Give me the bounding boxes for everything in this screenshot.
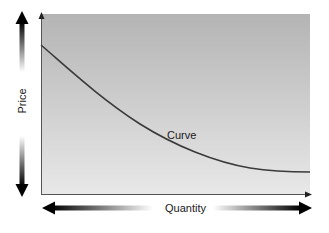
quantity-left-arrow-icon: [42, 202, 153, 215]
price-quantity-chart: Curve Price Quantity: [0, 0, 329, 233]
x-axis-label: Quantity: [165, 202, 206, 214]
price-down-arrow-icon: [16, 136, 29, 197]
curve-label: Curve: [167, 129, 196, 141]
plot-area: [41, 14, 310, 194]
price-up-arrow-icon: [16, 11, 29, 72]
quantity-right-arrow-icon: [213, 202, 312, 215]
y-axis-label: Price: [16, 88, 28, 113]
